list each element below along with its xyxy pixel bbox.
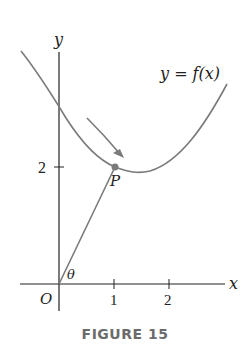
origin-label: O	[40, 290, 52, 308]
y-tick-label-2: 2	[38, 159, 46, 176]
figure-caption: FIGURE 15	[82, 326, 169, 342]
x-tick-label-2: 2	[164, 292, 172, 308]
arrowhead-icon	[113, 149, 124, 158]
motion-arrow	[87, 118, 120, 154]
x-tick-label-1: 1	[110, 292, 118, 308]
point-p	[112, 164, 119, 171]
figure-diagram: y x O 1 2 2 P θ y = f(x) FIGURE 15	[0, 0, 250, 362]
point-label: P	[109, 172, 121, 190]
angle-label: θ	[67, 267, 75, 282]
curve-label: y = f(x)	[159, 64, 220, 83]
x-axis-label: x	[229, 274, 238, 293]
y-axis-label: y	[53, 30, 64, 49]
